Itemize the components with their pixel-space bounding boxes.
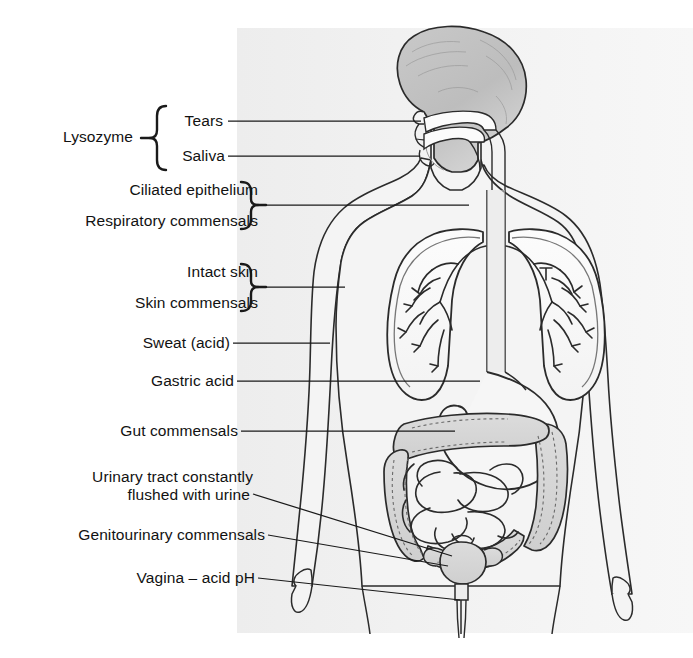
label-intact-skin: Intact skin: [0, 263, 258, 281]
diagram-artwork: [0, 0, 693, 658]
label-tears: Tears: [103, 112, 223, 130]
label-skin-commensals: Skin commensals: [0, 294, 258, 312]
label-lysozyme: Lysozyme: [13, 128, 133, 146]
label-gastric-acid: Gastric acid: [0, 372, 234, 390]
label-saliva: Saliva: [105, 147, 225, 165]
label-urinary-tract-line2: flushed with urine: [0, 486, 250, 504]
trachea: [487, 190, 505, 372]
label-respiratory-commensals: Respiratory commensals: [0, 212, 258, 230]
label-urinary-tract-line1: Urinary tract constantly: [0, 468, 253, 486]
label-sweat-acid: Sweat (acid): [0, 334, 230, 352]
label-vagina-acid-ph: Vagina – acid pH: [0, 569, 255, 587]
label-gut-commensals: Gut commensals: [0, 422, 238, 440]
anatomical-defences-diagram: Lysozyme Tears Saliva Ciliated epitheliu…: [0, 0, 693, 658]
label-genitourinary-commensals: Genitourinary commensals: [0, 526, 265, 544]
label-ciliated-epithelium: Ciliated epithelium: [0, 181, 258, 199]
urethra: [455, 584, 468, 600]
